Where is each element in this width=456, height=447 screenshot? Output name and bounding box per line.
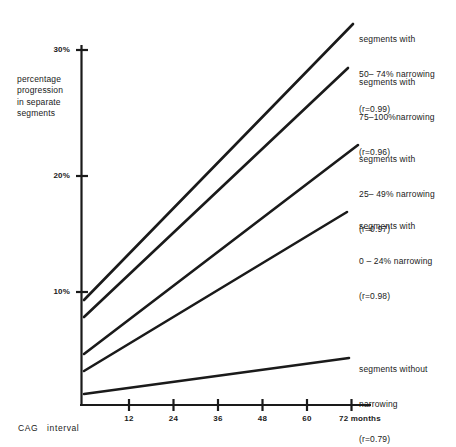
series-label-no-narrowing: segments without narrowing (r=0.79) — [359, 341, 455, 447]
series-line-no-narrowing — [84, 358, 349, 394]
y-tick-label-30: 30% — [36, 45, 70, 54]
chart-figure: percentage progression in separate segme… — [0, 0, 456, 447]
series-label-no-narrowing-r: (r=0.79) — [359, 434, 455, 446]
series-label-0-24-line2: 0 – 24% narrowing — [359, 256, 455, 268]
series-label-0-24-line1: segments with — [359, 221, 455, 233]
x-tick-label-48: 48 — [241, 414, 285, 423]
y-axis-title: percentage progression in separate segme… — [17, 74, 89, 120]
series-line-0-24 — [84, 212, 347, 371]
x-tick-label-36: 36 — [196, 414, 240, 423]
x-tick-label-60: 60 — [285, 414, 329, 423]
series-line-50-74 — [84, 24, 353, 300]
series-label-no-narrowing-line2: narrowing — [359, 399, 455, 411]
series-lines — [84, 24, 358, 394]
y-tick-label-20: 20% — [36, 171, 70, 180]
series-label-50-74-line1: segments with — [359, 34, 455, 46]
x-tick-label-24: 24 — [152, 414, 196, 423]
x-axis-title: CAG interval — [18, 423, 79, 434]
y-tick-label-10: 10% — [36, 287, 70, 296]
series-label-75-100-line2: 75–100%narrowing — [359, 112, 455, 124]
series-label-25-49-line1: segments with — [359, 154, 455, 166]
x-tick-label-12: 12 — [107, 414, 151, 423]
series-label-0-24: segments with 0 – 24% narrowing (r=0.98) — [359, 198, 455, 326]
series-line-25-49 — [84, 145, 358, 354]
series-label-no-narrowing-line1: segments without — [359, 364, 455, 376]
series-label-0-24-r: (r=0.98) — [359, 291, 455, 303]
series-label-75-100-line1: segments with — [359, 77, 455, 89]
series-line-75-100 — [84, 68, 348, 317]
